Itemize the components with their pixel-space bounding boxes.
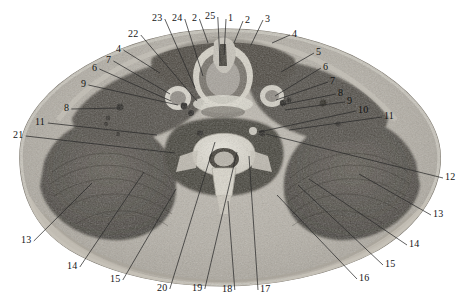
label-number-L5r: 5 bbox=[316, 47, 321, 57]
label-number-L3: 3 bbox=[265, 14, 270, 24]
label-number-L24: 24 bbox=[172, 13, 182, 23]
label-number-L20: 20 bbox=[157, 283, 167, 293]
figure-root: 2324225123422476981121567891011121314151… bbox=[0, 0, 461, 300]
label-number-L23: 23 bbox=[152, 13, 162, 23]
label-number-L19: 19 bbox=[192, 283, 202, 293]
label-number-L9l: 9 bbox=[81, 79, 86, 89]
label-number-L13r: 13 bbox=[433, 209, 443, 219]
label-layer: 2324225123422476981121567891011121314151… bbox=[0, 0, 461, 300]
label-number-L25: 25 bbox=[205, 11, 215, 21]
label-number-L2b: 2 bbox=[245, 15, 250, 25]
label-number-L4l: 4 bbox=[116, 44, 121, 54]
label-number-L21: 21 bbox=[13, 130, 23, 140]
label-number-L6r: 6 bbox=[323, 62, 328, 72]
label-number-L15l: 15 bbox=[110, 274, 120, 284]
label-number-L2a: 2 bbox=[192, 13, 197, 23]
label-number-L18: 18 bbox=[222, 284, 232, 294]
label-number-L16: 16 bbox=[359, 273, 369, 283]
label-number-L17: 17 bbox=[260, 284, 270, 294]
label-number-L13l: 13 bbox=[21, 235, 31, 245]
label-number-L8r: 8 bbox=[338, 88, 343, 98]
label-number-L9r: 9 bbox=[347, 96, 352, 106]
label-number-L10: 10 bbox=[358, 105, 368, 115]
label-number-L22: 22 bbox=[128, 29, 138, 39]
label-number-L8l: 8 bbox=[64, 103, 69, 113]
label-number-L4r: 4 bbox=[292, 29, 297, 39]
label-number-L12: 12 bbox=[445, 172, 455, 182]
label-number-L1: 1 bbox=[228, 13, 233, 23]
label-number-L14r: 14 bbox=[409, 239, 419, 249]
label-number-L6l: 6 bbox=[92, 63, 97, 73]
label-number-L15r: 15 bbox=[385, 259, 395, 269]
label-number-L11r: 11 bbox=[384, 111, 394, 121]
label-number-L11l: 11 bbox=[35, 117, 45, 127]
label-number-L7r: 7 bbox=[330, 76, 335, 86]
label-number-L14l: 14 bbox=[67, 261, 77, 271]
label-number-L7l: 7 bbox=[106, 55, 111, 65]
